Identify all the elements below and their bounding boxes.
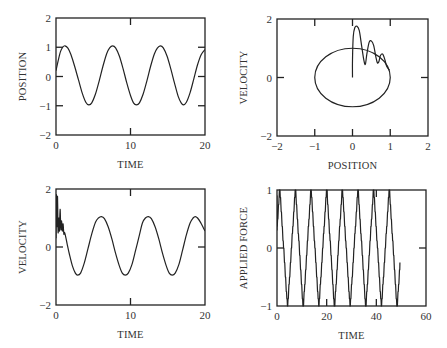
x-axis-title: POSITION xyxy=(328,160,378,171)
y-tick-label: 1 xyxy=(267,184,273,196)
x-tick-label: 10 xyxy=(125,139,137,151)
y-tick-label: 1 xyxy=(46,41,52,53)
x-tick-label: 60 xyxy=(421,310,433,322)
y-tick-label: 2 xyxy=(46,183,52,195)
y-tick-label: −2 xyxy=(260,130,272,142)
panel-velocity-vs-position: −2−1012−202POSITIONVELOCITY xyxy=(238,13,431,171)
plot-frame xyxy=(56,18,205,135)
x-tick-label: 40 xyxy=(371,310,383,322)
force-curve xyxy=(277,190,400,306)
x-tick-label: 20 xyxy=(321,310,333,322)
x-tick-label: 10 xyxy=(125,309,137,321)
x-tick-label: 2 xyxy=(425,140,431,152)
x-tick-label: −1 xyxy=(309,140,321,152)
x-tick-label: 1 xyxy=(388,140,394,152)
y-tick-label: 0 xyxy=(267,242,273,254)
y-tick-label: 2 xyxy=(46,12,52,24)
position-curve xyxy=(56,46,205,105)
y-tick-label: −2 xyxy=(39,299,51,311)
x-axis-title: TIME xyxy=(117,159,143,170)
plot-frame xyxy=(56,189,205,305)
x-tick-label: −2 xyxy=(271,140,283,152)
y-tick-label: −1 xyxy=(39,100,51,112)
x-tick-label: 20 xyxy=(200,309,212,321)
y-axis-title: APPLIED FORCE xyxy=(238,207,249,289)
x-tick-label: 0 xyxy=(274,310,280,322)
y-axis-title: VELOCITY xyxy=(17,220,28,274)
panel-applied-force-vs-time: 0204060−101TIMEAPPLIED FORCE xyxy=(238,184,432,341)
panel-position-vs-time: 01020−2−1012TIMEPOSITION xyxy=(17,12,211,170)
x-axis-title: TIME xyxy=(117,329,143,340)
panel-velocity-vs-time: 01020−202TIMEVELOCITY xyxy=(17,183,211,340)
x-tick-label: 0 xyxy=(53,139,59,151)
y-tick-label: −1 xyxy=(260,300,272,312)
y-tick-label: 2 xyxy=(267,13,273,25)
y-axis-title: VELOCITY xyxy=(238,50,249,104)
y-tick-label: 0 xyxy=(46,241,52,253)
y-tick-label: 0 xyxy=(267,72,273,84)
y-tick-label: −2 xyxy=(39,129,51,141)
y-tick-label: 0 xyxy=(46,71,52,83)
y-axis-title: POSITION xyxy=(17,52,28,102)
velocity-curve xyxy=(56,195,205,275)
x-axis-title: TIME xyxy=(338,330,364,341)
x-tick-label: 20 xyxy=(200,139,212,151)
figure: 01020−2−1012TIMEPOSITION −2−1012−202POSI… xyxy=(0,0,447,348)
x-tick-label: 0 xyxy=(350,140,356,152)
x-tick-label: 0 xyxy=(53,309,59,321)
